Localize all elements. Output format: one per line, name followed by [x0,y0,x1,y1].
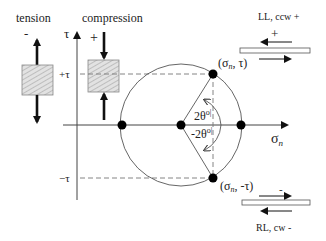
minus-tau-label: −τ [59,172,70,184]
angle-positive-label: 2θo| [194,108,211,123]
rl-caption: RL, cw - [256,222,291,233]
angle-negative-label: -2θo| [191,126,212,141]
rl-sign: - [279,183,283,195]
mohr-circle-diagram: tension - compression + τ σn +τ −τ 2θo| … [0,0,326,241]
tension-sign: - [24,26,28,41]
point-right [237,121,246,130]
point-lower [209,174,218,183]
plus-tau-label: +τ [59,68,70,80]
compression-sign: + [90,30,98,45]
point-center [177,121,186,130]
tau-axis-label: τ [64,26,69,41]
tension-block [22,65,53,95]
point-left [118,121,127,130]
compression-element: compression + [82,11,143,120]
point-upper-label: (σn, τ) [218,56,247,71]
tension-element: tension - [16,11,53,122]
sigma-axis-label: σn [271,131,284,148]
point-upper [209,70,218,79]
compression-block [88,60,119,92]
tension-label: tension [16,11,51,25]
ll-fault-bar [240,48,310,53]
ll-sign: + [271,26,278,41]
rl-fault-bar [242,200,310,205]
ll-caption: LL, ccw + [258,11,300,22]
point-lower-label: (σn, -τ) [220,179,253,194]
left-lateral-symbol: LL, ccw + + [240,11,310,59]
compression-label: compression [82,11,143,25]
